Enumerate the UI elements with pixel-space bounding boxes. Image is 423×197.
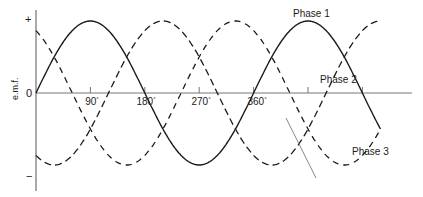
- x-tick-label-270: 270°: [191, 97, 210, 107]
- degree-symbol: °: [208, 96, 210, 102]
- tick-value: 270: [191, 96, 208, 107]
- x-tick-label-180: 180°: [136, 97, 155, 107]
- tick-value: 360: [247, 96, 264, 107]
- degree-symbol: °: [96, 96, 98, 102]
- three-phase-emf-diagram: e.m.f. + 0 − 90° 180° 270° 360° Phase 1 …: [0, 0, 423, 197]
- tick-value: 90: [85, 96, 96, 107]
- x-tick-label-360: 360°: [247, 97, 266, 107]
- plot-area: [0, 0, 423, 197]
- y-axis-label: e.m.f.: [10, 77, 20, 100]
- degree-symbol: °: [153, 96, 155, 102]
- x-tick-label-90: 90°: [85, 97, 99, 107]
- phase-3-label: Phase 3: [352, 147, 389, 157]
- y-plus-sign: +: [25, 14, 31, 25]
- tick-value: 180: [136, 96, 153, 107]
- pointer-line: [286, 118, 316, 178]
- x-axis-ticks: [90, 87, 362, 93]
- y-minus-sign: −: [26, 171, 32, 182]
- phase-1-label: Phase 1: [293, 9, 330, 19]
- y-zero-label: 0: [26, 88, 32, 99]
- phase-2-label: Phase 2: [320, 75, 357, 85]
- degree-symbol: °: [264, 96, 266, 102]
